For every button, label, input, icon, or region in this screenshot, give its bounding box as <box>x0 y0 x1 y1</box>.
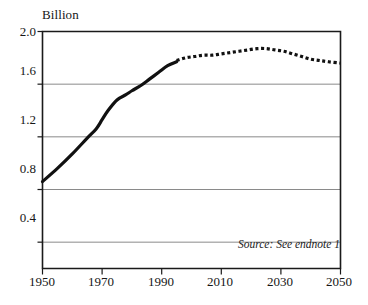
x-tick-label: 1970 <box>71 274 131 289</box>
x-tick-1990: 1990 <box>131 274 191 289</box>
data-series-layer <box>43 48 341 181</box>
y-tick-label: 0.4 <box>20 211 36 224</box>
y-tick-label: 1.2 <box>20 113 36 126</box>
axis-frame <box>43 32 341 269</box>
x-tick-label: 1950 <box>12 274 72 289</box>
x-tick-label: 1990 <box>131 274 191 289</box>
series-line-historical <box>43 62 177 182</box>
x-tick-label: 2010 <box>190 274 250 289</box>
x-tick-1950: 1950 <box>12 274 72 289</box>
chart-figure: Billion 2.0 1.6 1.2 0.8 0.4 1950 1970 19… <box>0 0 368 305</box>
x-tick-label: 2050 <box>309 274 368 289</box>
y-tick-0-4: 0.4 <box>0 211 36 224</box>
x-tick-2030: 2030 <box>250 274 310 289</box>
x-tick-label: 2030 <box>250 274 310 289</box>
y-tick-1-2: 1.2 <box>0 113 36 126</box>
y-tick-label: 1.6 <box>20 64 36 77</box>
plot-area <box>0 0 368 305</box>
series-line-projected <box>177 48 341 63</box>
source-note: Source: See endnote 1 <box>238 238 340 251</box>
y-axis-unit-label: Billion <box>42 7 79 22</box>
y-tick-0-8: 0.8 <box>0 162 36 175</box>
x-tick-1970: 1970 <box>71 274 131 289</box>
y-tick-1-6: 1.6 <box>0 64 36 77</box>
y-tick-label: 2.0 <box>20 25 36 38</box>
y-tick-2-0: 2.0 <box>0 25 36 38</box>
x-tick-2050: 2050 <box>309 274 368 289</box>
y-tick-label: 0.8 <box>20 162 36 175</box>
x-tick-2010: 2010 <box>190 274 250 289</box>
gridlines <box>38 32 341 243</box>
